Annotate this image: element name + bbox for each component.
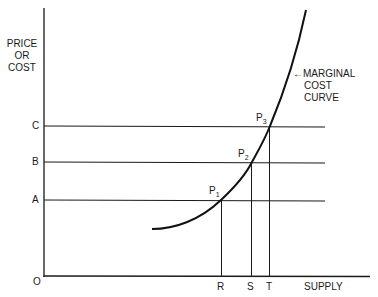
origin-label: O — [33, 276, 41, 287]
point-label-p3: P3 — [256, 112, 267, 124]
arrow-left-icon: ← — [293, 68, 303, 79]
p1-letter: P — [209, 185, 216, 196]
p3-subscript: 3 — [263, 118, 267, 125]
marginal-cost-curve — [152, 10, 306, 229]
quantity-label-t: T — [266, 281, 272, 292]
quantity-label-r: R — [217, 281, 224, 292]
price-line-c — [44, 126, 325, 127]
point-label-p1: P1 — [209, 185, 220, 197]
price-label-c: C — [32, 120, 39, 131]
y-axis-label-line1: PRICE — [4, 38, 40, 50]
diagram-canvas — [0, 0, 378, 297]
x-axis-label: SUPPLY — [304, 281, 343, 292]
p2-letter: P — [238, 148, 245, 159]
marginal-cost-annotation: ←MARGINAL COST CURVE — [293, 68, 355, 104]
y-axis-label-line2: OR — [4, 50, 40, 62]
p1-subscript: 1 — [216, 191, 220, 198]
price-label-a: A — [32, 194, 39, 205]
point-label-p2: P2 — [238, 148, 249, 160]
p3-letter: P — [256, 112, 263, 123]
price-line-a — [44, 200, 325, 201]
y-axis-label: PRICE OR COST — [4, 38, 40, 74]
x-axis — [44, 276, 371, 277]
annotation-line2: COST — [293, 80, 355, 92]
price-line-b — [44, 162, 325, 163]
annotation-line3: CURVE — [293, 92, 355, 104]
p2-subscript: 2 — [245, 154, 249, 161]
quantity-label-s: S — [247, 281, 254, 292]
price-label-b: B — [32, 156, 39, 167]
annotation-line1: MARGINAL — [303, 68, 355, 79]
y-axis-label-line3: COST — [4, 62, 40, 74]
